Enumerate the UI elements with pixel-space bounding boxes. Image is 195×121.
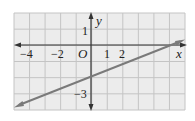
x-tick-2: 2 bbox=[119, 47, 125, 61]
x-tick-neg2: −2 bbox=[51, 47, 64, 61]
x-tick-1: 1 bbox=[104, 47, 110, 61]
x-tick-neg4: −4 bbox=[20, 47, 33, 61]
coordinate-graph: y x O −4 −2 1 2 1 −3 bbox=[0, 0, 195, 121]
y-tick-neg3: −3 bbox=[74, 87, 87, 101]
y-axis-label: y bbox=[94, 13, 102, 28]
x-axis-label: x bbox=[175, 46, 182, 61]
y-tick-1: 1 bbox=[82, 24, 88, 38]
origin-label: O bbox=[78, 46, 88, 61]
